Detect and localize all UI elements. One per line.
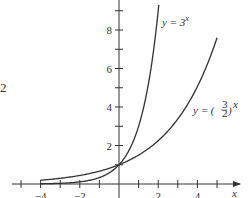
x-tick-label: −2 xyxy=(74,190,86,198)
x-tick-label: 2 xyxy=(155,190,161,198)
x-axis-label: x xyxy=(231,187,237,198)
curves xyxy=(41,5,217,184)
x-tick-label: −4 xyxy=(35,190,47,198)
exponential-chart: −4−2242468 x y = 3x y = ( 3 2 ) x xyxy=(0,0,250,198)
annotation-1.5-pow-x: y = ( 3 2 ) x xyxy=(192,98,238,119)
svg-text:y = (: y = ( xyxy=(192,104,216,117)
y-tick-label: 4 xyxy=(107,101,113,113)
svg-text:): ) xyxy=(227,104,232,117)
axes xyxy=(12,0,240,198)
svg-text:y = 3x: y = 3x xyxy=(161,14,189,28)
svg-text:2: 2 xyxy=(222,107,228,119)
annotation-3-pow-x: y = 3x xyxy=(161,14,189,28)
y-tick-label: 2 xyxy=(107,140,113,152)
tick-labels: −4−2242468 xyxy=(35,24,201,198)
curve-1.5-pow-x xyxy=(41,38,217,180)
x-tick-label: 4 xyxy=(195,190,201,198)
curve-3-pow-x xyxy=(41,5,159,184)
svg-text:x: x xyxy=(232,98,238,110)
y-tick-label: 6 xyxy=(107,63,113,75)
y-tick-label: 8 xyxy=(107,24,113,36)
